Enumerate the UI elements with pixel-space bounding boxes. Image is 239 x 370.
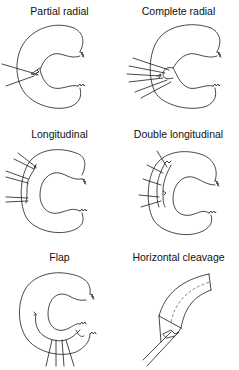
panel-flap: Flap — [0, 246, 119, 369]
double-longitudinal-illustration — [119, 123, 238, 246]
longitudinal-illustration — [0, 123, 119, 246]
panel-partial-radial: Partial radial — [0, 0, 119, 123]
panel-longitudinal: Longitudinal — [0, 123, 119, 246]
panel-horizontal-cleavage: Horizontal cleavage — [119, 246, 238, 369]
partial-radial-illustration — [0, 0, 119, 123]
panel-double-longitudinal: Double longitudinal — [119, 123, 238, 246]
complete-radial-illustration — [119, 0, 238, 123]
flap-illustration — [0, 246, 119, 370]
horizontal-cleavage-illustration — [119, 246, 238, 370]
panel-complete-radial: Complete radial — [119, 0, 238, 123]
